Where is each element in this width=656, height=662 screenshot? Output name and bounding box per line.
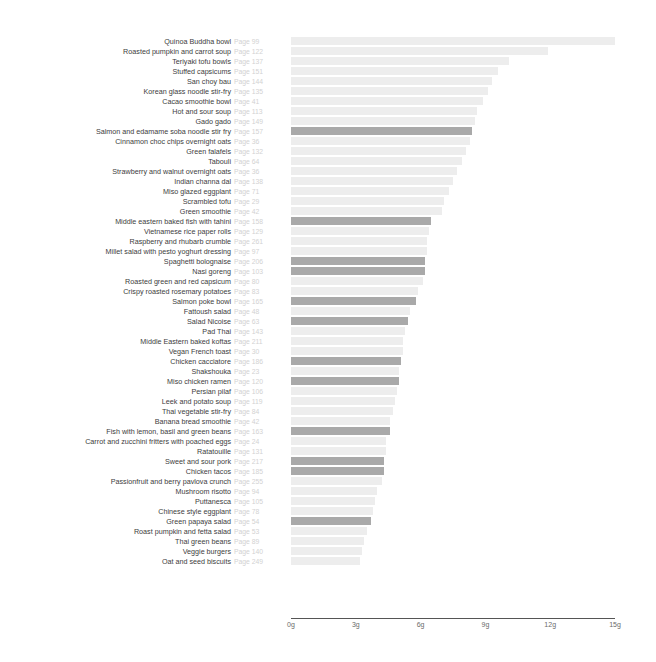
bar-track xyxy=(291,337,615,345)
row-label: Roasted green and red capsicum xyxy=(0,277,231,286)
bar-track xyxy=(291,397,615,405)
bar xyxy=(291,277,423,285)
row-page-reference: Page 163 xyxy=(234,427,284,436)
bar-track xyxy=(291,557,615,565)
row-label: Korean glass noodle stir-fry xyxy=(0,87,231,96)
bar-track xyxy=(291,57,615,65)
row-label: Teriyaki tofu bowls xyxy=(0,57,231,66)
bar xyxy=(291,287,418,295)
bar xyxy=(291,377,399,385)
row-label: Miso chicken ramen xyxy=(0,377,231,386)
bar xyxy=(291,367,399,375)
bar xyxy=(291,217,431,225)
chart-row: Oat and seed biscuitsPage 249 xyxy=(0,556,656,566)
bar xyxy=(291,307,410,315)
chart-row: Salmon and edamame soba noodle stir fryP… xyxy=(0,126,656,136)
bar xyxy=(291,467,384,475)
row-label: Salad Nicoise xyxy=(0,317,231,326)
row-label: Scrambled tofu xyxy=(0,197,231,206)
row-page-reference: Page 255 xyxy=(234,477,284,486)
bar-track xyxy=(291,267,615,275)
chart-rows: Quinoa Buddha bowlPage 99Roasted pumpkin… xyxy=(0,36,656,566)
row-label: Ratatouille xyxy=(0,447,231,456)
bar-track xyxy=(291,237,615,245)
bar-track xyxy=(291,497,615,505)
bar xyxy=(291,337,403,345)
bar-track xyxy=(291,427,615,435)
row-page-reference: Page 122 xyxy=(234,47,284,56)
bar-track xyxy=(291,77,615,85)
row-page-reference: Page 94 xyxy=(234,487,284,496)
chart-row: Pad ThaiPage 143 xyxy=(0,326,656,336)
x-tick-label: 12g xyxy=(544,621,556,628)
bar-track xyxy=(291,387,615,395)
row-label: Spaghetti bolognaise xyxy=(0,257,231,266)
bar-track xyxy=(291,137,615,145)
row-page-reference: Page 138 xyxy=(234,177,284,186)
bar-track xyxy=(291,317,615,325)
chart-row: Green papaya saladPage 54 xyxy=(0,516,656,526)
row-page-reference: Page 71 xyxy=(234,187,284,196)
row-page-reference: Page 23 xyxy=(234,367,284,376)
bar xyxy=(291,177,453,185)
bar xyxy=(291,157,462,165)
bar xyxy=(291,247,427,255)
chart-row: ShakshoukaPage 23 xyxy=(0,366,656,376)
bar xyxy=(291,187,449,195)
x-tick-label: 9g xyxy=(481,621,489,628)
row-page-reference: Page 41 xyxy=(234,97,284,106)
row-page-reference: Page 149 xyxy=(234,117,284,126)
chart-row: Teriyaki tofu bowlsPage 137 xyxy=(0,56,656,66)
bar-track xyxy=(291,517,615,525)
bar-track xyxy=(291,297,615,305)
bar xyxy=(291,207,442,215)
row-page-reference: Page 185 xyxy=(234,467,284,476)
bar-track xyxy=(291,417,615,425)
bar-track xyxy=(291,97,615,105)
bar-track xyxy=(291,227,615,235)
bar xyxy=(291,527,367,535)
row-page-reference: Page 151 xyxy=(234,67,284,76)
bar-track xyxy=(291,217,615,225)
bar-track xyxy=(291,447,615,455)
row-page-reference: Page 84 xyxy=(234,407,284,416)
row-label: Salmon and edamame soba noodle stir fry xyxy=(0,127,231,136)
row-page-reference: Page 135 xyxy=(234,87,284,96)
row-label: Passionfruit and berry pavlova crunch xyxy=(0,477,231,486)
row-page-reference: Page 137 xyxy=(234,57,284,66)
chart-row: Cacao smoothie bowlPage 41 xyxy=(0,96,656,106)
x-tick-label: 15g xyxy=(609,621,621,628)
bar xyxy=(291,517,371,525)
bar-track xyxy=(291,467,615,475)
row-label: Cacao smoothie bowl xyxy=(0,97,231,106)
row-page-reference: Page 144 xyxy=(234,77,284,86)
x-axis-line xyxy=(291,618,615,619)
bar xyxy=(291,267,425,275)
bar xyxy=(291,477,382,485)
row-page-reference: Page 54 xyxy=(234,517,284,526)
chart-row: Passionfruit and berry pavlova crunchPag… xyxy=(0,476,656,486)
row-label: Thai vegetable stir-fry xyxy=(0,407,231,416)
row-page-reference: Page 143 xyxy=(234,327,284,336)
row-label: Green papaya salad xyxy=(0,517,231,526)
bar-track xyxy=(291,457,615,465)
row-page-reference: Page 158 xyxy=(234,217,284,226)
row-page-reference: Page 36 xyxy=(234,137,284,146)
row-label: Fish with lemon, basil and green beans xyxy=(0,427,231,436)
row-label: Green smoothie xyxy=(0,207,231,216)
bar-track xyxy=(291,347,615,355)
bar-track xyxy=(291,207,615,215)
row-page-reference: Page 42 xyxy=(234,417,284,426)
row-label: Veggie burgers xyxy=(0,547,231,556)
chart-row: Miso glazed eggplantPage 71 xyxy=(0,186,656,196)
chart-row: Miso chicken ramenPage 120 xyxy=(0,376,656,386)
chart-row: Thai vegetable stir-fryPage 84 xyxy=(0,406,656,416)
row-page-reference: Page 261 xyxy=(234,237,284,246)
bar-track xyxy=(291,87,615,95)
bar xyxy=(291,77,492,85)
row-label: Carrot and zucchini fritters with poache… xyxy=(0,437,231,446)
row-label: Roasted pumpkin and carrot soup xyxy=(0,47,231,56)
row-page-reference: Page 97 xyxy=(234,247,284,256)
bar-track xyxy=(291,547,615,555)
row-label: Miso glazed eggplant xyxy=(0,187,231,196)
